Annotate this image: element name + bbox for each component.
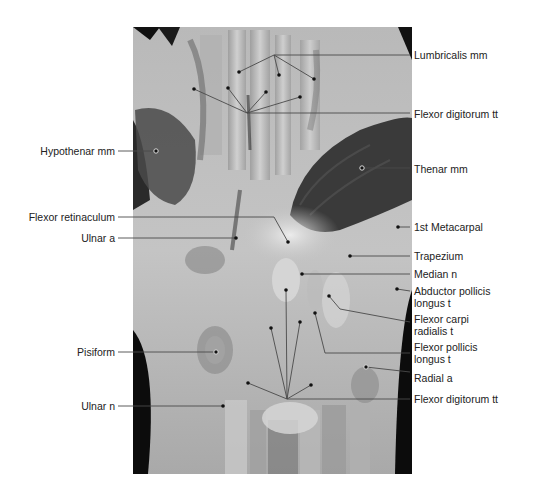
label-hypothenar-mm: Hypothenar mm [40,145,115,157]
label-median-n: Median n [414,268,457,280]
label-pisiform: Pisiform [77,346,115,358]
label-flexor-digitorum-tt-top: Flexor digitorum tt [414,108,498,120]
label-lumbricalis-mm: Lumbricalis mm [414,49,488,61]
label-ulnar-n: Ulnar n [81,400,115,412]
label-trapezium: Trapezium [414,250,463,262]
label-flexor-digitorum-tt-bottom: Flexor digitorum tt [414,393,498,405]
label-flexor-carpi-radialis-t: Flexor carpi radialis t [414,313,469,337]
label-flexor-pollicis-longus-t: Flexor pollicis longus t [414,341,478,365]
label-flexor-retinaculum: Flexor retinaculum [29,211,115,223]
label-1st-metacarpal: 1st Metacarpal [414,221,483,233]
label-abductor-pollicis-longus-t: Abductor pollicis longus t [414,285,490,309]
label-ulnar-a: Ulnar a [81,232,115,244]
label-radial-a: Radial a [414,372,453,384]
anatomy-figure: Lumbricalis mm Flexor digitorum tt Thena… [0,0,556,492]
label-thenar-mm: Thenar mm [414,163,468,175]
wrist-cross-section-photo [0,0,556,492]
